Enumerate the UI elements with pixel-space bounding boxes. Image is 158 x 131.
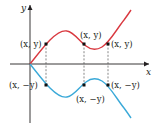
- point-label-lower-1: (x, −y): [9, 80, 38, 90]
- y-axis-label: y: [20, 3, 27, 13]
- lower-points: [45, 84, 110, 87]
- x-axis-label: x: [146, 67, 151, 77]
- symmetry-diagram: x y (x, y) (x, y) (x, y) (x, −y) (x, −y)…: [0, 0, 158, 131]
- point-label-upper-3: (x, y): [111, 39, 133, 49]
- upper-points: [45, 43, 110, 46]
- lower-curve: [30, 64, 131, 118]
- point-label-upper-1: (x, y): [20, 39, 42, 49]
- point-label-lower-2: (x, −y): [76, 94, 105, 104]
- point-label-lower-3: (x, −y): [111, 80, 140, 90]
- point-label-upper-2: (x, y): [80, 30, 102, 40]
